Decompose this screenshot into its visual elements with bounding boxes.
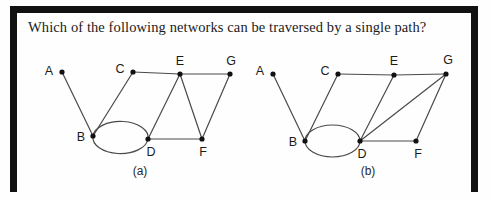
node-B <box>90 133 95 138</box>
node-label-G: G <box>443 53 453 67</box>
node-D <box>357 138 362 143</box>
edge-E-G <box>394 74 446 75</box>
node-label-F: F <box>414 147 422 161</box>
node-E <box>391 72 396 77</box>
node-C <box>335 71 340 76</box>
node-D <box>145 136 150 141</box>
edge-multi-B-D <box>305 125 360 157</box>
edge-E-F <box>180 74 202 139</box>
edge-A-B <box>273 74 305 141</box>
node-label-E: E <box>176 54 184 68</box>
node-label-G: G <box>226 54 236 68</box>
network-diagrams: ABCDEFGABCDEFG <box>0 0 492 199</box>
worksheet-page: Which of the following networks can be t… <box>0 0 492 199</box>
node-F <box>199 136 204 141</box>
node-label-D: D <box>357 147 366 161</box>
edge-A-B <box>62 72 93 136</box>
edge-arc-upper <box>93 121 148 139</box>
network-diagram-a: ABCDEFG <box>45 54 236 159</box>
node-A <box>270 71 275 76</box>
node-label-A: A <box>45 64 54 78</box>
node-label-A: A <box>256 64 265 78</box>
node-label-B: B <box>77 130 85 144</box>
edge-C-E <box>133 72 180 74</box>
edge-E-D <box>148 74 180 139</box>
node-C <box>130 69 135 74</box>
node-A <box>59 69 64 74</box>
diagram-caption-b: (b) <box>361 164 376 178</box>
node-label-C: C <box>115 62 124 76</box>
edge-arc-upper <box>305 125 360 141</box>
edge-G-F <box>202 74 230 139</box>
edge-multi-B-D <box>93 121 148 153</box>
edge-C-B <box>305 74 338 141</box>
edge-arc-lower <box>305 141 360 157</box>
edge-arc-lower <box>93 136 148 154</box>
node-B <box>302 138 307 143</box>
edge-G-F <box>416 74 446 141</box>
node-label-D: D <box>146 145 155 159</box>
node-label-F: F <box>199 145 207 159</box>
node-label-B: B <box>289 135 297 149</box>
node-F <box>413 138 418 143</box>
edge-E-D <box>360 75 394 141</box>
edge-C-E <box>338 74 394 75</box>
network-diagram-b: ABCDEFG <box>256 53 453 161</box>
edge-G-D <box>360 74 446 141</box>
edge-C-B <box>93 72 133 136</box>
node-label-C: C <box>320 64 329 78</box>
node-G <box>227 71 232 76</box>
diagram-caption-a: (a) <box>133 164 148 178</box>
node-label-E: E <box>390 54 398 68</box>
node-G <box>443 71 448 76</box>
node-E <box>177 71 182 76</box>
